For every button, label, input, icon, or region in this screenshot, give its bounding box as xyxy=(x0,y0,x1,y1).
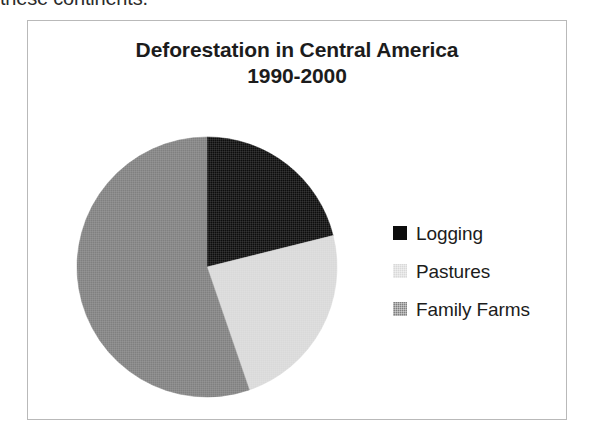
chart-legend: Logging Pastures Family Farms xyxy=(393,214,558,328)
legend-swatch-family-farms xyxy=(393,302,407,316)
legend-label-family-farms: Family Farms xyxy=(416,299,530,320)
legend-item-logging: Logging xyxy=(393,214,558,252)
chart-title: Deforestation in Central America 1990-20… xyxy=(28,37,566,89)
chart-frame: Deforestation in Central America 1990-20… xyxy=(27,20,567,420)
cropped-paragraph-text: these continents. xyxy=(0,0,300,11)
legend-label-pastures: Pastures xyxy=(416,261,490,282)
legend-label-logging: Logging xyxy=(416,223,483,244)
chart-title-line-1: Deforestation in Central America xyxy=(136,38,459,61)
pie-chart xyxy=(76,136,338,398)
chart-title-line-2: 1990-2000 xyxy=(28,63,566,89)
legend-swatch-pastures xyxy=(393,264,407,278)
pie-chart-svg xyxy=(76,136,338,398)
legend-item-pastures: Pastures xyxy=(393,252,558,290)
legend-swatch-logging xyxy=(393,226,407,240)
legend-item-family-farms: Family Farms xyxy=(393,290,558,328)
